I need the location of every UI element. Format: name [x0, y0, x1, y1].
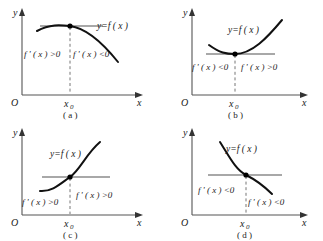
- y-axis-label-b: y: [182, 7, 188, 18]
- y-axis-arrow-c: [19, 128, 25, 136]
- x0-label-d: x: [239, 218, 245, 229]
- figure-grid: y x O x 0 y=f ( x ) f ' ( x ) >0 f ' ( x…: [0, 0, 323, 241]
- panel-a: y x O x 0 y=f ( x ) f ' ( x ) >0 f ' ( x…: [0, 0, 161, 120]
- critical-point-dot-b: [232, 51, 237, 56]
- panel-c: y x O x 0 y=f ( x ) f ' ( x ) >0 f ' ( x…: [0, 120, 161, 240]
- right-derivative-label-b: f ' ( x ) >0: [241, 62, 278, 72]
- panel-d: y x O x 0 y=f ( x ) f ' ( x ) <0 f ' ( x…: [162, 120, 323, 240]
- origin-label-b: O: [181, 97, 188, 108]
- x-axis-label-c: x: [136, 217, 142, 228]
- right-derivative-label-d: f ' ( x ) <0: [248, 197, 285, 207]
- panel-caption-a: ( a ): [63, 110, 78, 120]
- panel-caption-b: ( b ): [228, 110, 243, 120]
- origin-label-d: O: [181, 217, 188, 228]
- x0-label-a: x: [63, 98, 69, 109]
- x-axis-label-d: x: [301, 217, 307, 228]
- y-axis-label-d: y: [182, 127, 188, 138]
- y-axis-arrow-a: [19, 8, 25, 16]
- panel-b: y x O x 0 y=f ( x ) f ' ( x ) <0 f ' ( x…: [162, 0, 323, 120]
- critical-point-dot-a: [67, 23, 72, 28]
- y-axis-arrow-d: [189, 128, 195, 136]
- critical-point-dot-d: [243, 172, 248, 177]
- curve-label-c: y=f ( x ): [49, 149, 81, 160]
- right-derivative-label-a: f ' ( x ) <0: [73, 49, 110, 59]
- left-derivative-label-b: f ' ( x ) <0: [192, 62, 229, 72]
- curve-label-a: y=f ( x ): [96, 21, 128, 32]
- y-axis-label-a: y: [12, 7, 18, 18]
- curve-label-b: y=f ( x ): [227, 25, 259, 36]
- origin-label-a: O: [11, 97, 18, 108]
- y-axis-label-c: y: [12, 127, 18, 138]
- x0-label-b: x: [228, 98, 234, 109]
- y-axis-arrow-b: [189, 8, 195, 16]
- curve-label-d: y=f ( x ): [225, 144, 257, 155]
- panel-caption-d: ( d ): [237, 230, 252, 240]
- panel-caption-c: ( c ): [63, 230, 78, 240]
- x-axis-label-b: x: [301, 97, 307, 108]
- right-derivative-label-c: f ' ( x ) >0: [76, 190, 113, 200]
- x-axis-label-a: x: [136, 97, 142, 108]
- x0-label-c: x: [63, 218, 69, 229]
- critical-point-dot-c: [67, 174, 72, 179]
- left-derivative-label-a: f ' ( x ) >0: [24, 49, 61, 59]
- origin-label-c: O: [11, 217, 18, 228]
- left-derivative-label-c: f ' ( x ) >0: [22, 197, 59, 207]
- left-derivative-label-d: f ' ( x ) <0: [198, 185, 235, 195]
